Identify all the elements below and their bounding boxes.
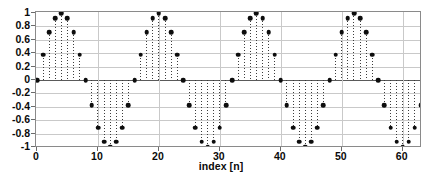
stem-line [384, 80, 385, 105]
data-point-marker [285, 103, 290, 108]
stem-line [305, 80, 306, 147]
horizontal-gridline [36, 93, 420, 94]
data-point-marker [291, 125, 296, 130]
data-point-marker [193, 125, 198, 130]
x-axis-tick-mark [36, 147, 37, 151]
y-axis-tick-mark [31, 119, 35, 120]
stem-line [207, 80, 208, 147]
stem-line [372, 55, 373, 80]
stem-plot-figure: 10.80.60.40.20-0.2-0.4-0.6-0.8-1 0102030… [0, 0, 442, 176]
stem-line [353, 13, 354, 80]
data-point-marker [144, 30, 149, 35]
horizontal-gridline [36, 134, 420, 135]
data-point-marker [327, 78, 332, 83]
stem-line [366, 32, 367, 80]
data-point-marker [352, 11, 357, 15]
y-axis-tick-label: -0.6 [12, 114, 30, 125]
y-axis-tick-label: -0.8 [12, 127, 30, 138]
data-point-marker [230, 78, 235, 83]
data-point-marker [187, 103, 192, 108]
stem-line [402, 80, 403, 147]
stem-line [110, 80, 111, 147]
data-point-marker [71, 30, 76, 35]
data-point-marker [407, 139, 412, 144]
stem-line [219, 80, 220, 128]
data-point-marker [370, 52, 375, 57]
stem-line [390, 80, 391, 128]
data-point-marker [309, 139, 314, 144]
data-point-marker [163, 16, 168, 21]
data-point-marker [169, 30, 174, 35]
data-point-marker [358, 16, 363, 21]
stem-line [396, 80, 397, 142]
horizontal-gridline [36, 120, 420, 121]
y-axis-tick-label: 0.4 [15, 47, 30, 58]
y-axis-tick-label: 0.8 [15, 20, 30, 31]
data-point-marker [47, 30, 52, 35]
y-axis-tick-mark [31, 52, 35, 53]
horizontal-gridline [36, 40, 420, 41]
data-point-marker [260, 16, 265, 21]
data-point-marker [157, 11, 162, 15]
data-point-marker [242, 30, 247, 35]
stem-line [104, 80, 105, 142]
y-axis-tick-mark [31, 79, 35, 80]
data-point-marker [83, 78, 88, 83]
x-axis-tick-mark [158, 147, 159, 151]
data-point-marker [346, 16, 351, 21]
data-point-marker [218, 125, 223, 130]
data-point-marker [59, 11, 64, 15]
data-point-marker [224, 103, 229, 108]
data-point-marker [333, 52, 338, 57]
y-axis-tick-label: 0 [24, 74, 30, 85]
stem-line [116, 80, 117, 142]
data-point-marker [41, 52, 46, 57]
data-point-marker [364, 30, 369, 35]
x-axis-tick-mark [402, 147, 403, 151]
stem-line [43, 55, 44, 80]
data-point-marker [339, 30, 344, 35]
plot-area [35, 11, 421, 147]
horizontal-gridline [36, 53, 420, 54]
stem-line [244, 32, 245, 80]
x-axis-tick-mark [97, 147, 98, 151]
data-point-marker [138, 52, 143, 57]
y-axis-tick-mark [31, 12, 35, 13]
stem-line [274, 55, 275, 80]
data-point-marker [413, 125, 418, 130]
stem-line [140, 55, 141, 80]
stem-line [97, 80, 98, 128]
stem-line [225, 80, 226, 105]
stem-line [347, 18, 348, 80]
stem-line [213, 80, 214, 142]
stem-line [146, 32, 147, 80]
stem-line [158, 13, 159, 80]
data-point-marker [376, 78, 381, 83]
stem-line [408, 80, 409, 142]
stem-line [268, 32, 269, 80]
data-point-marker [65, 16, 70, 21]
data-point-marker [35, 78, 39, 83]
x-axis-tick-mark [341, 147, 342, 151]
stem-line [414, 80, 415, 128]
stem-line [73, 32, 74, 80]
data-point-marker [96, 125, 101, 130]
stem-line [286, 80, 287, 105]
data-point-marker [266, 30, 271, 35]
y-axis-tick-mark [31, 66, 35, 67]
stem-line [128, 80, 129, 105]
stem-line [335, 55, 336, 80]
y-axis-tick-label: 0.2 [15, 60, 30, 71]
data-point-marker [315, 125, 320, 130]
data-point-marker [394, 139, 399, 144]
stem-line [49, 32, 50, 80]
data-point-marker [126, 103, 131, 108]
stem-line [421, 80, 422, 105]
data-point-marker [132, 78, 137, 83]
horizontal-gridline [36, 26, 420, 27]
data-point-marker [90, 103, 95, 108]
stem-line [341, 32, 342, 80]
y-axis-tick-label: -0.2 [12, 87, 30, 98]
data-point-marker [248, 16, 253, 21]
stem-line [360, 18, 361, 80]
